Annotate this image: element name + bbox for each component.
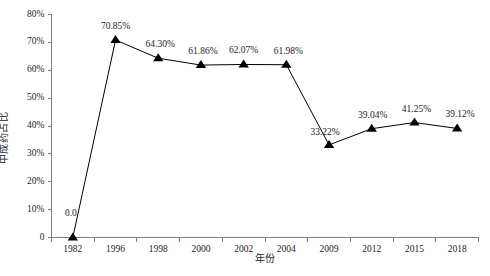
data-point-label: 33.22% xyxy=(310,127,339,137)
y-tick-label: 30% xyxy=(27,149,44,159)
x-tick-label: 1998 xyxy=(149,245,168,255)
data-series xyxy=(68,35,463,240)
data-point-label: 70.85% xyxy=(101,22,130,32)
data-point-marker xyxy=(238,60,248,68)
data-point-marker xyxy=(281,60,291,68)
y-tick-label: 70% xyxy=(27,38,44,48)
line-chart: 中成药占比 年份 010%20%30%40%50%60%70%80% 19821… xyxy=(0,0,490,276)
x-axis-title: 年份 xyxy=(255,254,276,264)
x-tick-label: 2004 xyxy=(277,245,296,255)
x-tick-label: 2002 xyxy=(234,245,253,255)
data-point-marker xyxy=(409,118,419,126)
data-point-label: 62.07% xyxy=(229,46,258,56)
series-line xyxy=(73,40,457,237)
y-tick-label: 50% xyxy=(27,93,44,103)
data-point-marker xyxy=(153,53,163,61)
data-point-label: 41.25% xyxy=(402,104,431,114)
data-point-label: 39.04% xyxy=(358,110,387,120)
x-tick-label: 2015 xyxy=(405,245,424,255)
x-tick-label: 2012 xyxy=(362,245,381,255)
data-point-label: 0.0 xyxy=(65,208,77,218)
y-axis-title-text: 中成药占比 xyxy=(0,112,9,165)
x-tick-label: 2009 xyxy=(320,245,339,255)
x-tick-label: 2018 xyxy=(448,245,467,255)
x-tick-label: 2000 xyxy=(191,245,210,255)
y-tick-label: 40% xyxy=(27,121,44,131)
data-point-label: 61.98% xyxy=(274,46,303,56)
data-point-marker xyxy=(68,233,78,241)
y-tick-label: 60% xyxy=(27,66,44,76)
y-tick-label: 0 xyxy=(40,233,45,243)
data-point-label: 39.12% xyxy=(445,110,474,120)
y-tick-label: 80% xyxy=(27,10,44,20)
data-point-label: 61.86% xyxy=(188,47,217,57)
x-tick-label: 1996 xyxy=(106,245,125,255)
axes xyxy=(48,14,479,242)
y-tick-label: 10% xyxy=(27,205,44,215)
data-point-marker xyxy=(110,35,120,43)
data-point-label: 64.30% xyxy=(146,40,175,50)
plot-area xyxy=(0,0,490,276)
y-tick-label: 20% xyxy=(27,177,44,187)
x-tick-label: 1982 xyxy=(63,245,82,255)
